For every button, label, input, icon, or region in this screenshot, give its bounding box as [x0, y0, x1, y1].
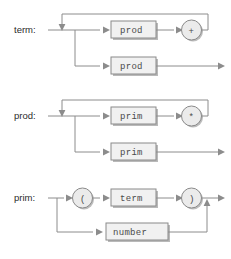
- prim-merge-arrow-icon: [204, 199, 211, 206]
- prim-merge-wire: [168, 206, 207, 232]
- term-exit-arrow-icon: [218, 63, 225, 70]
- term-upper-box-arrow-icon: [103, 27, 110, 34]
- prod-op-label: *: [189, 113, 194, 123]
- railroad-diagram-svg: term: prod + prod: [0, 0, 231, 259]
- term-upper-box-label: prod: [120, 26, 143, 36]
- prim-number-box-label: number: [113, 228, 147, 238]
- syntax-diagram-root: term: prod + prod: [0, 0, 231, 259]
- prim-number-box-arrow-icon: [96, 229, 103, 236]
- rule-prod: prod: prim * prim: [14, 100, 225, 162]
- prod-lower-box-arrow-icon: [103, 149, 110, 156]
- prim-closeparen-label: ): [189, 195, 194, 205]
- prim-term-box-arrow-icon: [103, 195, 110, 202]
- rule-prim: prim: ( term ) numbe: [14, 188, 225, 242]
- prim-openparen-arrow-icon: [66, 195, 73, 202]
- prod-upper-box-arrow-icon: [103, 113, 110, 120]
- prod-upper-box-label: prim: [120, 112, 143, 122]
- prim-exit-arrow-icon: [218, 195, 225, 202]
- prod-exit-arrow-icon: [218, 149, 225, 156]
- rule-label-prod: prod:: [14, 110, 36, 121]
- rule-term: term: prod + prod: [14, 14, 225, 76]
- term-branch-wire: [75, 30, 100, 66]
- prod-lower-box-label: prim: [120, 148, 143, 158]
- term-lower-box-arrow-icon: [103, 63, 110, 70]
- term-lower-box-label: prod: [120, 62, 143, 72]
- prim-openparen-label: (: [80, 195, 85, 205]
- prim-term-box-label: term: [120, 194, 143, 204]
- term-op-label: +: [189, 27, 194, 37]
- rule-label-term: term:: [14, 24, 36, 35]
- prod-branch-wire: [75, 116, 100, 152]
- rule-label-prim: prim:: [14, 192, 35, 203]
